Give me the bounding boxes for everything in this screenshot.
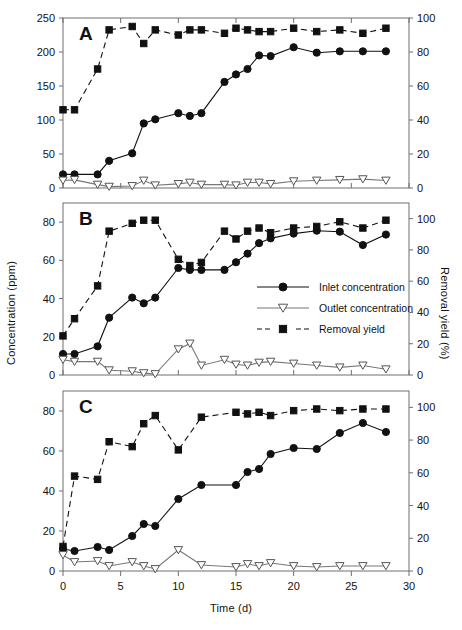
marker-yield	[152, 412, 158, 418]
y-tick-label-left: 150	[37, 80, 55, 92]
y-tick-label-right: 0	[417, 182, 423, 194]
marker-yield	[314, 223, 320, 229]
marker-inlet	[94, 343, 101, 350]
panel-frame-A	[63, 18, 409, 188]
marker-yield	[175, 256, 181, 262]
marker-yield	[267, 412, 273, 418]
marker-yield	[256, 409, 262, 415]
marker-outlet	[105, 563, 113, 570]
marker-yield	[383, 25, 389, 31]
marker-inlet	[244, 250, 251, 257]
marker-inlet	[382, 428, 389, 435]
marker-inlet	[152, 116, 159, 123]
marker-yield	[129, 23, 135, 29]
marker-inlet	[152, 522, 159, 529]
x-tick-label: 15	[230, 580, 242, 592]
y-tick-label-right: 40	[417, 500, 429, 512]
x-tick-label: 5	[118, 580, 124, 592]
panel-label-B: B	[79, 208, 93, 229]
marker-inlet	[221, 266, 228, 273]
marker-inlet	[71, 547, 78, 554]
legend-label-0: Inlet concentration	[319, 281, 405, 293]
y-tick-label-right: 20	[417, 148, 429, 160]
marker-yield	[337, 219, 343, 225]
marker-yield	[106, 439, 112, 445]
x-tick-label: 10	[172, 580, 184, 592]
marker-outlet	[59, 552, 67, 559]
y-tick-label-right: 100	[417, 401, 435, 413]
marker-inlet	[255, 240, 262, 247]
x-tick-label: 20	[288, 580, 300, 592]
marker-inlet	[129, 532, 136, 539]
marker-inlet	[313, 445, 320, 452]
marker-inlet	[232, 71, 239, 78]
marker-inlet	[106, 546, 113, 553]
marker-yield	[337, 407, 343, 413]
marker-yield	[71, 316, 77, 322]
marker-inlet	[175, 264, 182, 271]
y-tick-label-left: 0	[49, 182, 55, 194]
y-tick-label-left: 200	[37, 46, 55, 58]
marker-inlet	[290, 444, 297, 451]
marker-yield	[141, 421, 147, 427]
y-tick-label-left: 0	[49, 369, 55, 381]
marker-inlet	[359, 241, 366, 248]
marker-yield	[290, 407, 296, 413]
marker-inlet	[198, 481, 205, 488]
marker-inlet	[313, 49, 320, 56]
marker-inlet	[255, 52, 262, 59]
marker-inlet	[255, 465, 262, 472]
marker-outlet	[151, 566, 159, 573]
marker-yield	[383, 406, 389, 412]
y-tick-label-right: 20	[417, 532, 429, 544]
marker-inlet	[336, 228, 343, 235]
marker-inlet	[359, 48, 366, 55]
marker-yield	[314, 28, 320, 34]
marker-outlet	[382, 366, 390, 373]
marker-yield	[129, 220, 135, 226]
y-tick-label-right: 100	[417, 12, 435, 24]
y-tick-label-right: 60	[417, 80, 429, 92]
x-tick-label: 30	[403, 580, 415, 592]
marker-inlet	[71, 350, 78, 357]
marker-yield	[233, 25, 239, 31]
marker-yield	[152, 217, 158, 223]
marker-inlet	[186, 112, 193, 119]
y-tick-label-left: 100	[37, 114, 55, 126]
y-tick-label-right: 40	[417, 114, 429, 126]
marker-yield	[244, 228, 250, 234]
y-tick-label-left: 40	[43, 485, 55, 497]
marker-yield	[198, 259, 204, 265]
marker-yield	[141, 217, 147, 223]
legend-marker-yield	[279, 325, 286, 332]
y-tick-label-right: 0	[417, 565, 423, 577]
y-tick-label-right: 40	[417, 306, 429, 318]
marker-inlet	[382, 231, 389, 238]
marker-outlet	[255, 563, 263, 570]
marker-outlet	[140, 177, 148, 184]
marker-yield	[94, 476, 100, 482]
marker-inlet	[221, 78, 228, 85]
y-tick-label-right: 20	[417, 338, 429, 350]
marker-inlet	[152, 294, 159, 301]
marker-inlet	[129, 150, 136, 157]
marker-yield	[267, 230, 273, 236]
marker-inlet	[336, 429, 343, 436]
marker-inlet	[244, 65, 251, 72]
marker-yield	[71, 107, 77, 113]
y-tick-label-right: 100	[417, 213, 435, 225]
marker-yield	[60, 107, 66, 113]
marker-inlet	[175, 110, 182, 117]
marker-yield	[175, 447, 181, 453]
x-tick-label: 25	[345, 580, 357, 592]
y-tick-label-right: 80	[417, 434, 429, 446]
legend-marker-inlet	[279, 283, 287, 291]
y-tick-label-left: 40	[43, 293, 55, 305]
marker-yield	[221, 30, 227, 36]
marker-inlet	[140, 300, 147, 307]
marker-yield	[244, 27, 250, 33]
marker-yield	[244, 411, 250, 417]
marker-yield	[152, 27, 158, 33]
panel-label-A: A	[79, 23, 93, 44]
marker-yield	[360, 225, 366, 231]
